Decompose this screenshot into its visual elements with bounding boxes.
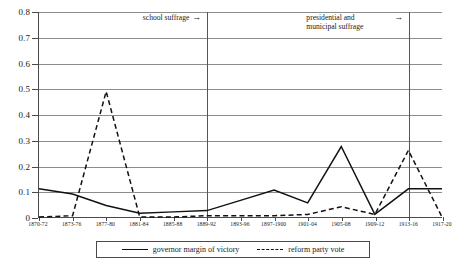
legend-label: governor margin of victory (153, 246, 240, 254)
series-lines (39, 12, 442, 217)
y-axis-tick (32, 141, 38, 142)
legend-swatch-solid-icon (122, 249, 148, 250)
x-axis-tick-label: 1873-76 (62, 221, 81, 228)
y-axis-tick (32, 89, 38, 90)
y-axis-tick-label: 0.7 (18, 33, 30, 42)
series-line-governor-margin-of-victory (39, 147, 442, 215)
x-axis-tick-label: 1870-72 (28, 221, 47, 228)
x-axis-tick-label: 1885-88 (163, 221, 182, 228)
series-line-reform-party-vote (39, 91, 442, 217)
x-axis-tick-label: 1877-80 (96, 221, 115, 228)
legend-label: reform party vote (288, 246, 344, 254)
y-axis-tick (32, 192, 38, 193)
y-axis-tick-label: 0.1 (18, 188, 30, 197)
x-axis-tick-label: 1917-20 (432, 221, 451, 228)
x-axis-tick-label: 1905-08 (331, 221, 350, 228)
y-axis-tick-label: 0.8 (18, 8, 30, 17)
legend-item-reform-party-vote: reform party vote (257, 246, 344, 254)
x-axis-tick-label: 1893-96 (230, 221, 249, 228)
y-axis-tick (32, 218, 38, 219)
y-axis-tick-label: 0.3 (18, 136, 30, 145)
plot-area: 00.10.20.30.40.50.60.70.8 school suffrag… (38, 12, 442, 218)
legend-item-governor-margin: governor margin of victory (122, 246, 240, 254)
legend-swatch-dashed-icon (257, 249, 283, 250)
x-axis-tick-label: 1913-16 (399, 221, 418, 228)
y-axis-tick (32, 38, 38, 39)
x-axis-tick-label: 1897-1900 (261, 221, 286, 228)
chart-legend: governor margin of victory reform party … (96, 241, 370, 258)
y-axis-tick-label: 0.5 (18, 85, 30, 94)
x-axis-labels-group: 1870-721873-761877-801881-841885-881889-… (38, 221, 442, 233)
y-axis-tick (32, 12, 38, 13)
y-axis-tick-label: 0.4 (18, 111, 30, 120)
x-axis-tick-label: 1909-12 (365, 221, 384, 228)
y-axis-tick (32, 64, 38, 65)
y-axis-tick-label: 0.6 (18, 59, 30, 68)
chart-container: 00.10.20.30.40.50.60.70.8 school suffrag… (0, 0, 460, 264)
x-axis-tick-label: 1889-92 (197, 221, 216, 228)
y-axis-tick (32, 167, 38, 168)
x-axis-tick-label: 1901-04 (298, 221, 317, 228)
y-axis-tick-label: 0.2 (18, 162, 30, 171)
x-axis-tick-label: 1881-84 (129, 221, 148, 228)
y-axis-tick (32, 115, 38, 116)
